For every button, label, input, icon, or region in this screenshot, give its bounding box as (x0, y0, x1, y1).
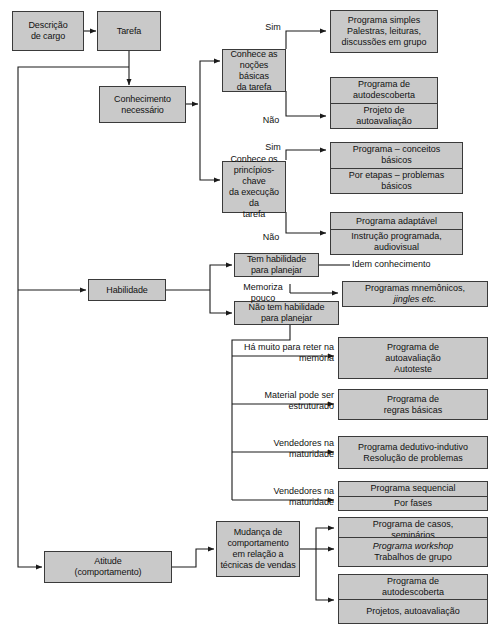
outcome-programa-sequencial[interactable]: Programa sequencial Por fases (338, 481, 488, 511)
node-atitude-comportamento[interactable]: Atitude (comportamento) (44, 551, 172, 583)
outcome-segment: Por etapas – problemas básicos (331, 168, 462, 194)
node-line: necessário (102, 105, 183, 116)
outcome-line: Programa de casos, (373, 519, 454, 530)
node-line: Atitude (47, 556, 169, 567)
outcome-line: discussões em grupo (341, 37, 426, 48)
outcome-line: Programa – conceitos (353, 144, 441, 155)
outcome-line: Programa de (387, 394, 439, 405)
outcome-regras-basicas[interactable]: Programa de regras básicas (338, 389, 488, 420)
outcome-segment: Por fases (339, 496, 487, 511)
node-line: da execução da (225, 187, 283, 209)
node-conhece-nocoes-basicas[interactable]: Conhece as noções básicas da tarefa (222, 49, 286, 92)
outcome-line: Resolução de problemas (363, 453, 463, 464)
edge-label-nao-1: Não (256, 115, 286, 126)
outcome-line: Trabalhos de grupo (374, 552, 452, 563)
outcome-segment: Programa workshop Trabalhos de grupo (339, 538, 487, 566)
node-line: tarefa (225, 209, 283, 220)
outcome-segment: Projetos, autoavaliação (339, 599, 487, 623)
outcome-segment: Programa simples Palestras, leituras, di… (331, 11, 437, 52)
edge-label-line: Vendedores na (273, 438, 334, 448)
outcome-line: Programa de (358, 79, 410, 90)
outcome-line: Por fases (394, 498, 432, 509)
node-tarefa[interactable]: Tarefa (97, 11, 161, 51)
node-mudanca-de-comportamento[interactable]: Mudança de comportamento em relação a té… (216, 521, 300, 577)
outcome-segment: Programa dedutivo-indutivo Resolução de … (339, 437, 487, 468)
node-habilidade[interactable]: Habilidade (88, 279, 166, 301)
edge-label-line: Há muito para (244, 342, 301, 352)
outcome-line: autoavaliação (356, 116, 412, 127)
outcome-line: autodescoberta (353, 90, 415, 101)
node-descricao-de-cargo[interactable]: Descrição de cargo (12, 11, 84, 51)
outcome-segment: Programa sequencial (339, 482, 487, 496)
outcome-segment: Programa adaptável (331, 213, 462, 229)
outcome-segment: Programa – conceitos básicos (331, 143, 462, 168)
outcome-segment: Programas mnemônicos, jingles etc. (343, 282, 487, 306)
outcome-line: Programa simples (348, 15, 421, 26)
edge-label-material-pode-ser-estruturado: Material pode ser estruturado (236, 390, 334, 412)
edge-label-sim-2: Sim (258, 142, 288, 153)
outcome-line: Programa de (387, 342, 439, 353)
outcome-segment: Programa de regras básicas (339, 390, 487, 419)
node-line: comportamento (219, 538, 297, 549)
node-line: técnicas de vendas (219, 560, 297, 571)
outcome-line: autodescoberta (382, 587, 444, 598)
node-line: para planejar (237, 313, 336, 324)
outcome-programa-simples[interactable]: Programa simples Palestras, leituras, di… (330, 10, 438, 53)
node-line: para planejar (237, 265, 316, 276)
outcome-line: audiovisual (374, 242, 419, 253)
outcome-line: Programas mnemônicos, (365, 283, 465, 294)
edge-label-line: Material pode (264, 390, 319, 400)
edge-label-vendedores-na-maturidade-1: Vendedores na maturidade (236, 438, 334, 460)
outcome-line: básicos (381, 155, 412, 166)
edge-label-memoriza-pouco: Memoriza pouco (236, 282, 290, 304)
edge-label-line: pouco (251, 293, 276, 303)
node-line: noções básicas (225, 60, 283, 82)
outcome-programa-workshop[interactable]: Programa workshop Trabalhos de grupo (338, 537, 488, 567)
node-line: de cargo (15, 31, 81, 42)
node-line: Conhece os (225, 154, 283, 165)
outcome-line: Palestras, leituras, (347, 26, 421, 37)
outcome-line: Autoteste (394, 364, 432, 375)
outcome-segment: Programa de autodescoberta (339, 575, 487, 599)
outcome-line: Programa de (387, 576, 439, 587)
outcome-line: Instrução programada, (351, 231, 442, 242)
outcome-autodescoberta-projeto[interactable]: Programa de autodescoberta Projeto de au… (330, 77, 438, 129)
edge-label-line: maturidade (289, 497, 334, 507)
edge-label-line: Memoriza (243, 282, 283, 292)
node-conhece-principios-chave[interactable]: Conhece os princípios-chave da execução … (222, 161, 286, 213)
outcome-line: Programa workshop (373, 541, 454, 552)
outcome-programas-mnemonicos[interactable]: Programas mnemônicos, jingles etc. (342, 281, 488, 307)
outcome-line: jingles etc. (394, 294, 437, 305)
outcome-autoavaliacao-autoteste[interactable]: Programa de autoavaliação Autoteste (338, 337, 488, 379)
outcome-dedutivo-indutivo[interactable]: Programa dedutivo-indutivo Resolução de … (338, 436, 488, 469)
edge-label-nao-2: Não (256, 232, 286, 243)
node-line: Mudança de (219, 527, 297, 538)
node-line: Habilidade (91, 285, 163, 296)
outcome-line: regras básicas (384, 405, 443, 416)
outcome-autodescoberta-projetos[interactable]: Programa de autodescoberta Projetos, aut… (338, 574, 488, 624)
edge-label-sim-1: Sim (258, 22, 288, 33)
outcome-segment: Projeto de autoavaliação (331, 103, 437, 129)
node-line: Tem habilidade (237, 254, 316, 265)
node-line: Descrição (15, 20, 81, 31)
edge-label-vendedores-na-maturidade-2: Vendedores na maturidade (236, 486, 334, 508)
edge-label-line: maturidade (289, 449, 334, 459)
outcome-line: Programa sequencial (370, 483, 455, 494)
node-line: Conhecimento (102, 94, 183, 105)
node-line: (comportamento) (47, 567, 169, 578)
node-conhecimento-necessario[interactable]: Conhecimento necessário (99, 86, 186, 123)
outcome-line: Projetos, autoavaliação (366, 606, 460, 617)
edge-label-idem-conhecimento: Idem conhecimento (352, 259, 431, 270)
node-line: princípios-chave (225, 165, 283, 187)
flowchart-canvas: Descrição de cargo Tarefa Conhecimento n… (0, 0, 498, 636)
edge-label-line: reter na memória (299, 342, 334, 363)
outcome-line: básicos (381, 181, 412, 192)
edge-label-ha-muito-para-reter: Há muito para reter na memória (236, 342, 334, 364)
node-tem-habilidade-para-planejar[interactable]: Tem habilidade para planejar (234, 253, 319, 277)
outcome-line: Projeto de (363, 105, 404, 116)
outcome-segment: Instrução programada, audiovisual (331, 229, 462, 254)
outcome-conceitos-basicos[interactable]: Programa – conceitos básicos Por etapas … (330, 142, 463, 194)
node-line: Tarefa (100, 26, 158, 37)
outcome-programa-adaptavel[interactable]: Programa adaptável Instrução programada,… (330, 212, 463, 255)
node-nao-tem-habilidade-para-planejar[interactable]: Não tem habilidade para planejar (234, 301, 339, 325)
